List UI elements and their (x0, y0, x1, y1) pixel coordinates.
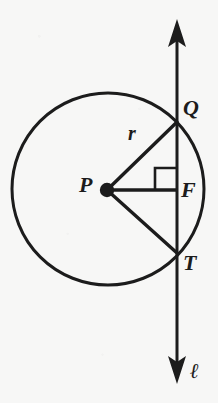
point-label-P: P (79, 174, 92, 196)
point-label-F: F (181, 179, 196, 201)
right-angle-marker-at-F (155, 168, 177, 190)
point-label-T: T (183, 252, 196, 274)
line-label-ell: ℓ (190, 361, 199, 382)
point-dot-P (100, 183, 114, 197)
point-label-Q: Q (183, 97, 199, 119)
radius-label-r: r (128, 123, 136, 143)
segment-PT (107, 190, 177, 253)
segment-PQ (107, 122, 177, 190)
geometry-figure: P Q F T r ℓ (0, 0, 218, 403)
